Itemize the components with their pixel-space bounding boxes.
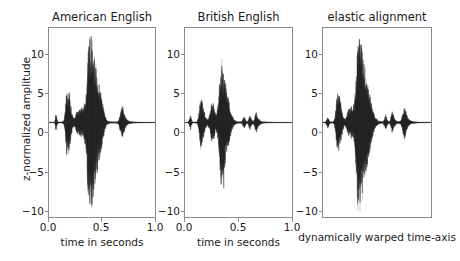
x-tick-label-0.0-panel2: 0.0 — [164, 222, 204, 233]
x-axis-label-panel1: time in seconds — [28, 236, 176, 248]
waveform-american-english — [49, 28, 155, 217]
panel-title-elastic-alignment: elastic alignment — [322, 9, 432, 25]
y-tick-label-10: 10 — [4, 49, 44, 60]
panel-title-british-english: British English — [184, 9, 293, 25]
plot-panel-american-english — [48, 27, 156, 218]
x-axis-label-panel2: time in seconds — [164, 236, 313, 248]
plot-panel-british-english — [184, 27, 293, 218]
waveform-elastic-alignment — [323, 28, 431, 217]
y-tick-label-5: 5 — [4, 88, 44, 99]
plot-panel-elastic-alignment — [322, 27, 432, 218]
panel-title-american-english: American English — [48, 9, 156, 25]
x-tick-label-0.0-panel1: 0.0 — [28, 222, 68, 233]
x-tick-label-0.5-panel2: 0.5 — [218, 222, 258, 233]
waveform-british-english — [185, 28, 292, 217]
y-tick-label-minus5: −5 — [4, 167, 44, 178]
y-tick-label-minus10: −10 — [4, 206, 44, 217]
x-axis-label-panel3: dynamically warped time-axis — [294, 231, 460, 243]
x-tick-label-0.5-panel1: 0.5 — [81, 222, 121, 233]
y-tick-label-0: 0 — [4, 127, 44, 138]
